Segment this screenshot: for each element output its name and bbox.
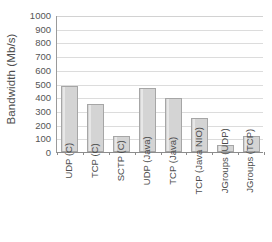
x-axis-category-label-text: JGroups (TCP) — [245, 129, 255, 193]
y-axis-tick-label: 300 — [35, 107, 51, 117]
plot-area — [56, 16, 263, 153]
y-axis-tick-label: 1000 — [30, 11, 51, 21]
x-axis-category-label: JGroups (TCP) — [208, 156, 272, 240]
x-axis-tick-mark — [135, 152, 136, 155]
y-axis-tick-label: 800 — [35, 39, 51, 49]
x-axis-tick-mark — [212, 152, 213, 155]
bar-chart: Bandwidth (Mb/s) 10009008007006005004003… — [0, 0, 272, 242]
x-axis-tick-mark — [109, 152, 110, 155]
y-axis-title-label: Bandwidth (Mb/s) — [5, 33, 17, 124]
y-axis-tick-label: 900 — [35, 25, 51, 35]
y-axis-title: Bandwidth (Mb/s) — [0, 0, 22, 158]
bar-series — [57, 16, 263, 152]
x-axis-tick-mark — [264, 152, 265, 155]
y-axis-tick-label: 600 — [35, 66, 51, 76]
x-axis-tick-mark — [238, 152, 239, 155]
x-axis-tick-mark — [57, 152, 58, 155]
y-axis-tick-label: 700 — [35, 52, 51, 62]
y-axis-tick-label: 400 — [35, 93, 51, 103]
y-axis-tick-label: 500 — [35, 80, 51, 90]
y-axis-tick-label: 200 — [35, 121, 51, 131]
x-axis-category-labels: UDP (C)TCP (C)SCTP (C)UDP (Java)TCP (Jav… — [56, 156, 263, 242]
x-axis-tick-mark — [161, 152, 162, 155]
x-axis-tick-mark — [83, 152, 84, 155]
y-axis-tick-label: 100 — [35, 135, 51, 145]
x-axis-tick-mark — [186, 152, 187, 155]
y-axis-tick-labels: 10009008007006005004003002001000 — [22, 16, 54, 153]
